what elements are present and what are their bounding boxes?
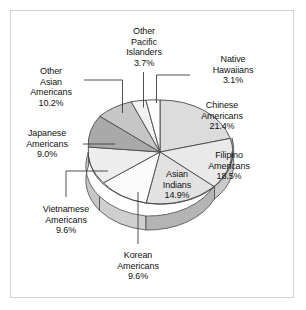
label-other-asian-americans-line1: Other — [18, 66, 84, 77]
label-korean-americans-line2: Americans — [101, 261, 175, 272]
label-other-pacific-islanders: Other Pacific Islanders 3.7% — [112, 26, 176, 68]
label-japanese-americans-line1: Japanese — [12, 128, 82, 139]
label-korean-americans-line1: Korean — [101, 250, 175, 261]
label-chinese-americans-line1: Chinese — [186, 100, 258, 111]
label-chinese-americans-line2: Americans — [186, 111, 258, 122]
label-native-hawaiians-value: 3.1% — [196, 75, 270, 86]
label-other-asian-americans-line2: Asian — [18, 77, 84, 88]
label-filipino-americans-line1: Filipino — [194, 150, 264, 161]
label-chinese-americans: Chinese Americans 21.4% — [186, 100, 258, 132]
label-other-pacific-islanders-value: 3.7% — [112, 58, 176, 69]
pie-chart-figure: Other Pacific Islanders 3.7% Native Hawa… — [0, 0, 306, 310]
label-asian-indians-line1: Asian — [148, 169, 206, 180]
label-japanese-americans-line2: Americans — [12, 139, 82, 150]
label-other-pacific-islanders-line1: Other — [112, 26, 176, 37]
label-vietnamese-americans-value: 9.6% — [22, 225, 110, 236]
label-korean-americans-value: 9.6% — [101, 271, 175, 282]
label-vietnamese-americans-line1: Vietnamese — [22, 204, 110, 215]
label-other-pacific-islanders-line3: Islanders — [112, 47, 176, 58]
label-asian-indians: Asian Indians 14.9% — [148, 169, 206, 201]
label-japanese-americans: Japanese Americans 9.0% — [12, 128, 82, 160]
label-asian-indians-value: 14.9% — [148, 190, 206, 201]
leader-native-hawaiians — [157, 75, 191, 103]
label-chinese-americans-value: 21.4% — [186, 121, 258, 132]
label-korean-americans: Korean Americans 9.6% — [101, 250, 175, 282]
label-japanese-americans-value: 9.0% — [12, 149, 82, 160]
label-native-hawaiians-line2: Hawaiians — [196, 65, 270, 76]
label-native-hawaiians-line1: Native — [196, 54, 270, 65]
label-vietnamese-americans: Vietnamese Americans 9.6% — [22, 204, 110, 236]
label-other-asian-americans-value: 10.2% — [18, 98, 84, 109]
label-other-asian-americans-line3: Americans — [18, 87, 84, 98]
label-other-pacific-islanders-line2: Pacific — [112, 37, 176, 48]
label-native-hawaiians: Native Hawaiians 3.1% — [196, 54, 270, 86]
label-asian-indians-line2: Indians — [148, 180, 206, 191]
label-other-asian-americans: Other Asian Americans 10.2% — [18, 66, 84, 108]
label-vietnamese-americans-line2: Americans — [22, 215, 110, 226]
